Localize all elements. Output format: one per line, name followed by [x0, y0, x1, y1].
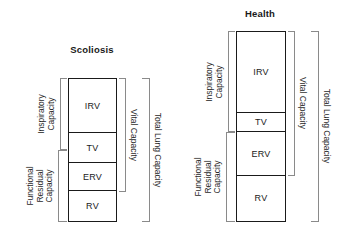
segment-scoliosis-erv: ERV — [69, 162, 116, 190]
volume-column-health: IRV TV ERV RV — [236, 31, 286, 222]
label-health-total-lung-capacity: Total Lung Capacity — [321, 89, 331, 164]
label-line-3: Capacity — [213, 157, 223, 196]
segment-label-erv: ERV — [251, 149, 270, 159]
bracket-health-vital-capacity — [288, 31, 295, 176]
segment-label-irv: IRV — [85, 101, 101, 111]
panel-title-scoliosis: Scoliosis — [70, 44, 114, 55]
bracket-health-functional-residual-capacity — [226, 132, 235, 222]
label-scoliosis-inspiratory-capacity: Inspiratory Capacity — [37, 94, 56, 134]
bracket-scoliosis-vital-capacity — [119, 78, 126, 192]
lung-volume-diagram: Scoliosis IRV TV ERV RV Inspiratory Capa… — [0, 0, 348, 240]
volume-column-scoliosis: IRV TV ERV RV — [68, 78, 117, 222]
label-health-inspiratory-capacity: Inspiratory Capacity — [205, 62, 224, 102]
label-scoliosis-vital-capacity: Vital Capacity — [128, 109, 138, 161]
bracket-scoliosis-functional-residual-capacity — [58, 150, 67, 222]
label-health-vital-capacity: Vital Capacity — [297, 77, 307, 129]
segment-scoliosis-irv: IRV — [69, 79, 116, 132]
bracket-health-total-lung-capacity — [311, 31, 319, 222]
bracket-scoliosis-inspiratory-capacity — [60, 78, 67, 150]
label-line-3: Capacity — [45, 166, 55, 205]
label-health-functional-residual-capacity: Functional Residual Capacity — [194, 157, 223, 196]
label-line-2: Capacity — [47, 94, 57, 134]
segment-label-rv: RV — [255, 193, 268, 203]
label-line-2: Capacity — [215, 62, 225, 102]
segment-label-erv: ERV — [83, 172, 102, 182]
segment-label-rv: RV — [86, 201, 99, 211]
bracket-health-inspiratory-capacity — [228, 31, 235, 132]
panel-title-health: Health — [245, 8, 275, 19]
segment-health-tv: TV — [237, 112, 285, 131]
segment-label-tv: TV — [255, 117, 267, 127]
segment-scoliosis-tv: TV — [69, 132, 116, 162]
segment-health-irv: IRV — [237, 32, 285, 112]
segment-health-rv: RV — [237, 175, 285, 219]
segment-label-tv: TV — [86, 143, 98, 153]
segment-scoliosis-rv: RV — [69, 190, 116, 219]
segment-label-irv: IRV — [253, 67, 269, 77]
bracket-scoliosis-total-lung-capacity — [142, 78, 150, 222]
segment-health-erv: ERV — [237, 131, 285, 175]
label-scoliosis-functional-residual-capacity: Functional Residual Capacity — [26, 166, 55, 205]
label-scoliosis-total-lung-capacity: Total Lung Capacity — [152, 113, 162, 188]
